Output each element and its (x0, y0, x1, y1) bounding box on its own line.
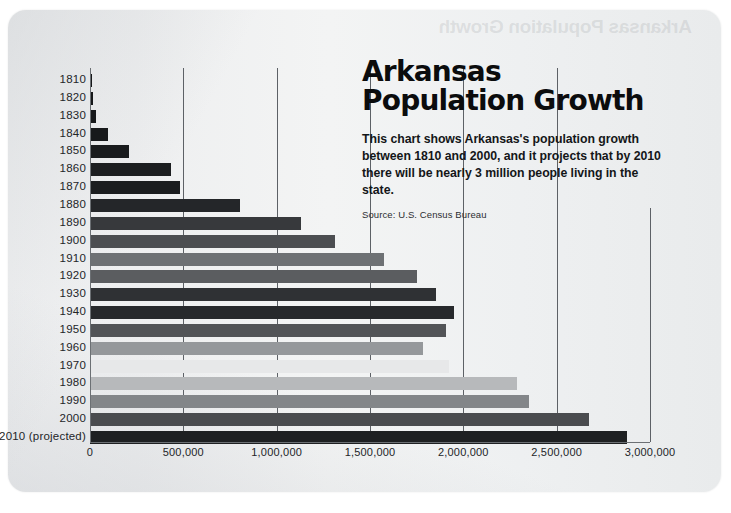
source-credit: Source: U.S. Census Bureau (362, 209, 702, 220)
gridline-3000000 (650, 208, 651, 442)
y-axis-label-1950: 1950 (60, 323, 86, 335)
y-axis-label-1890: 1890 (60, 216, 86, 228)
bar-1940 (90, 306, 454, 319)
x-tick-500000: 500,000 (133, 446, 233, 458)
bar-1890 (90, 217, 301, 230)
y-axis-label-1980: 1980 (60, 376, 86, 388)
x-tick-3000000: 3,000,000 (600, 446, 700, 458)
y-axis-label-1930: 1930 (60, 287, 86, 299)
y-axis-label-1880: 1880 (60, 198, 86, 210)
bar-1930 (90, 288, 436, 301)
x-tick-1000000: 1,000,000 (227, 446, 327, 458)
y-axis-label-1910: 1910 (60, 252, 86, 264)
x-tick-2000000: 2,000,000 (413, 446, 513, 458)
y-axis-line (90, 68, 91, 442)
y-axis-label-1990: 1990 (60, 394, 86, 406)
y-axis-label-1960: 1960 (60, 341, 86, 353)
bar-1950 (90, 324, 446, 337)
y-axis-label-1900: 1900 (60, 234, 86, 246)
page-root: Arkansas Population Growth 1810182018301… (0, 0, 731, 513)
y-axis-label-1840: 1840 (60, 127, 86, 139)
description-text: This chart shows Arkansas's population g… (362, 131, 662, 199)
y-axis-label-1830: 1830 (60, 109, 86, 121)
y-axis-label-2000: 2000 (60, 412, 86, 424)
bar-2000 (90, 413, 589, 426)
y-axis-label-1870: 1870 (60, 180, 86, 192)
bar-1920 (90, 270, 417, 283)
y-axis-label-2010: 2010 (projected) (0, 430, 86, 442)
page-title: Arkansas Population Growth (362, 58, 702, 115)
y-axis-label-1940: 1940 (60, 305, 86, 317)
bar-1860 (90, 163, 171, 176)
bar-1900 (90, 235, 335, 248)
y-axis-labels: 1810182018301840185018601870188018901900… (0, 0, 86, 513)
y-axis-label-1820: 1820 (60, 91, 86, 103)
bar-1980 (90, 377, 517, 390)
bar-1880 (90, 199, 240, 212)
y-axis-label-1920: 1920 (60, 269, 86, 281)
y-axis-label-1810: 1810 (60, 73, 86, 85)
bar-1970 (90, 360, 449, 373)
bar-1960 (90, 342, 423, 355)
y-axis-label-1860: 1860 (60, 162, 86, 174)
x-axis-line (90, 442, 650, 443)
bar-1990 (90, 395, 529, 408)
title-line-2: Population Growth (362, 87, 702, 116)
bar-1910 (90, 253, 384, 266)
y-axis-label-1970: 1970 (60, 359, 86, 371)
bar-1840 (90, 128, 108, 141)
x-tick-2500000: 2,500,000 (507, 446, 607, 458)
x-tick-1500000: 1,500,000 (320, 446, 420, 458)
headline-block: Arkansas Population Growth This chart sh… (362, 58, 702, 220)
bar-1850 (90, 145, 129, 158)
bar-1870 (90, 181, 180, 194)
y-axis-label-1850: 1850 (60, 144, 86, 156)
x-tick-0: 0 (40, 446, 140, 458)
